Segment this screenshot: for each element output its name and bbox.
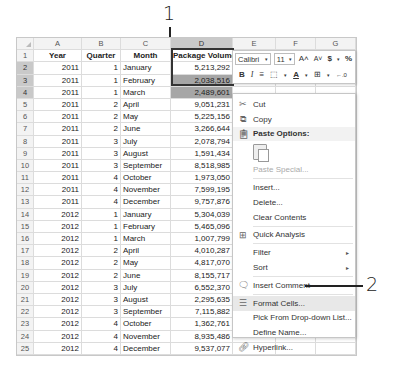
cell-year[interactable]: 2011 (34, 136, 82, 148)
row-header[interactable]: 25 (17, 343, 34, 355)
chevron-down-icon[interactable]: ▾ (283, 69, 288, 81)
cell-month[interactable]: November (121, 184, 171, 196)
cell-volume[interactable]: 8,935,486 (171, 331, 233, 343)
menu-item-delete[interactable]: Delete... (233, 195, 355, 210)
cell-quarter[interactable]: 3 (82, 306, 121, 318)
cell-month[interactable]: October (121, 172, 171, 184)
column-header-g[interactable]: G (316, 38, 356, 50)
currency-icon[interactable]: $ (326, 53, 332, 65)
menu-item-filter[interactable]: Filter ▸ (233, 245, 355, 260)
cell-year[interactable]: 2012 (34, 221, 82, 233)
cell-volume[interactable]: 6,552,370 (171, 282, 233, 294)
menu-item-pick-from-list[interactable]: Pick From Drop-down List... (233, 311, 355, 326)
shrink-font-icon[interactable]: A˅ (313, 53, 324, 65)
cell-quarter[interactable]: 1 (82, 209, 121, 221)
cell-year[interactable]: 2011 (34, 160, 82, 172)
cell-volume[interactable]: 5,304,039 (171, 209, 233, 221)
row-header[interactable]: 15 (17, 221, 34, 233)
row-header[interactable]: 2 (17, 62, 34, 74)
cell-month[interactable]: December (121, 196, 171, 208)
menu-item-sort[interactable]: Sort ▸ (233, 260, 355, 275)
cell-quarter[interactable]: 4 (82, 196, 121, 208)
cell-volume[interactable]: 1,362,761 (171, 318, 233, 330)
cell-volume[interactable]: 7,599,195 (171, 184, 233, 196)
cell-quarter[interactable]: 1 (82, 75, 121, 87)
cell-year[interactable]: 2011 (34, 99, 82, 111)
cell-volume[interactable]: 4,817,070 (171, 257, 233, 269)
cell-month[interactable]: August (121, 294, 171, 306)
row-header[interactable]: 21 (17, 294, 34, 306)
cell-quarter[interactable]: 2 (82, 270, 121, 282)
column-header-b[interactable]: B (82, 38, 121, 50)
bold-icon[interactable]: B (238, 69, 246, 81)
italic-icon[interactable]: I (250, 69, 255, 81)
chevron-down-icon[interactable]: ▾ (326, 69, 331, 81)
cell-quarter[interactable]: 1 (82, 221, 121, 233)
select-all-corner[interactable] (17, 38, 34, 50)
menu-item-copy[interactable]: ⧉ Copy (233, 112, 355, 127)
cell-volume[interactable]: 5,213,292 (171, 62, 233, 74)
cell-month[interactable]: April (121, 245, 171, 257)
cell-year[interactable]: 2011 (34, 184, 82, 196)
cell-quarter[interactable]: 3 (82, 148, 121, 160)
menu-item-quick-analysis[interactable]: ⊞ Quick Analysis (233, 228, 355, 243)
row-header[interactable]: 18 (17, 257, 34, 269)
row-header[interactable]: 22 (17, 306, 34, 318)
menu-item-format-cells[interactable]: ☰ Format Cells... (233, 296, 355, 311)
cell-year[interactable]: 2012 (34, 209, 82, 221)
cell-volume[interactable]: 1,007,799 (171, 233, 233, 245)
cell-year[interactable]: 2012 (34, 257, 82, 269)
cell-month[interactable]: February (121, 75, 171, 87)
cell-volume[interactable]: 9,537,077 (171, 343, 233, 355)
cell-month[interactable]: January (121, 62, 171, 74)
cell-quarter[interactable]: 4 (82, 343, 121, 355)
cell-volume[interactable]: 8,518,985 (171, 160, 233, 172)
cell-volume[interactable]: 9,757,876 (171, 196, 233, 208)
cell-quarter[interactable]: 2 (82, 99, 121, 111)
row-header[interactable]: 5 (17, 99, 34, 111)
row-header[interactable]: 1 (17, 50, 34, 62)
cell-volume[interactable]: 9,051,231 (171, 99, 233, 111)
row-header[interactable]: 11 (17, 172, 34, 184)
cell-year[interactable]: 2011 (34, 111, 82, 123)
row-header[interactable]: 16 (17, 233, 34, 245)
cell-volume[interactable]: 2,078,794 (171, 136, 233, 148)
cell-header-year[interactable]: Year (34, 50, 82, 62)
cell-month[interactable]: July (121, 136, 171, 148)
row-header[interactable]: 14 (17, 209, 34, 221)
cell-year[interactable]: 2012 (34, 294, 82, 306)
chevron-down-icon[interactable]: ▾ (304, 69, 309, 81)
cell-year[interactable]: 2011 (34, 196, 82, 208)
cell-year[interactable]: 2012 (34, 318, 82, 330)
cell-month[interactable]: September (121, 160, 171, 172)
menu-item-define-name[interactable]: Define Name... (233, 325, 355, 340)
fill-color-icon[interactable]: ⬚ (269, 69, 279, 81)
column-header-c[interactable]: C (121, 38, 171, 50)
cell-quarter[interactable]: 2 (82, 257, 121, 269)
cell-quarter[interactable]: 3 (82, 282, 121, 294)
cell-month[interactable]: June (121, 270, 171, 282)
cell-volume[interactable]: 5,225,156 (171, 111, 233, 123)
cell-year[interactable]: 2011 (34, 172, 82, 184)
row-header[interactable]: 13 (17, 196, 34, 208)
cell-month[interactable]: June (121, 123, 171, 135)
row-header[interactable]: 23 (17, 318, 34, 330)
increase-decimal-icon[interactable]: ←.0 (335, 69, 348, 81)
cell-quarter[interactable]: 4 (82, 318, 121, 330)
cell-volume[interactable]: 2,295,635 (171, 294, 233, 306)
cell-month[interactable]: May (121, 257, 171, 269)
cell-header-quarter[interactable]: Quarter (82, 50, 121, 62)
cell-quarter[interactable]: 4 (82, 172, 121, 184)
cell-volume[interactable]: 4,010,287 (171, 245, 233, 257)
cell-month[interactable]: March (121, 87, 171, 99)
cell-volume[interactable]: 8,155,717 (171, 270, 233, 282)
row-header[interactable]: 17 (17, 245, 34, 257)
cell-year[interactable]: 2012 (34, 331, 82, 343)
font-name-select[interactable]: Calibri▾ (235, 53, 271, 65)
cell-year[interactable]: 2012 (34, 233, 82, 245)
cell-quarter[interactable]: 3 (82, 160, 121, 172)
cell-year[interactable]: 2011 (34, 75, 82, 87)
row-header[interactable]: 24 (17, 331, 34, 343)
cell-quarter[interactable]: 4 (82, 184, 121, 196)
cell-quarter[interactable]: 2 (82, 245, 121, 257)
